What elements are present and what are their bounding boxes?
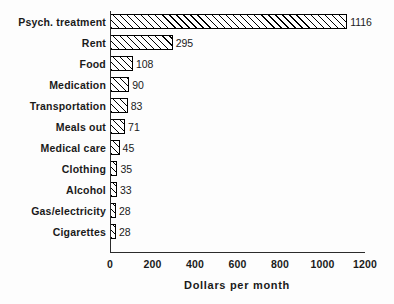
- bar-row: Medical care45: [0, 140, 394, 155]
- category-label: Meals out: [56, 121, 106, 133]
- bar: [110, 77, 129, 92]
- bar: [110, 119, 125, 134]
- bar-value-label: 108: [136, 58, 154, 70]
- x-axis-title: Dollars per month: [184, 279, 290, 291]
- category-label: Cigarettes: [53, 226, 106, 238]
- category-label: Transportation: [30, 100, 106, 112]
- bar: [110, 98, 128, 113]
- bar-row: Psych. treatment1116: [0, 14, 394, 29]
- bar-value-label: 35: [120, 163, 132, 175]
- bar-value-label: 33: [120, 184, 132, 196]
- x-axis-line: [110, 252, 365, 253]
- category-label: Medication: [49, 79, 106, 91]
- bar-row: Food108: [0, 56, 394, 71]
- bar-value-label: 28: [119, 205, 131, 217]
- bar-chart: Psych. treatment1116Rent295Food108Medica…: [0, 0, 394, 304]
- bar-row: Cigarettes28: [0, 224, 394, 239]
- x-tick-label: 0: [107, 258, 113, 270]
- bar-value-label: 1116: [350, 16, 372, 28]
- y-axis-line: [110, 11, 111, 253]
- bar-row: Gas/electricity28: [0, 203, 394, 218]
- bar: [110, 182, 117, 197]
- bar-row: Meals out71: [0, 119, 394, 134]
- plot-area: Psych. treatment1116Rent295Food108Medica…: [0, 0, 394, 304]
- bar: [110, 161, 117, 176]
- x-tick-label: 200: [143, 258, 161, 270]
- x-tick-label: 800: [271, 258, 289, 270]
- x-tick-label: 1000: [310, 258, 334, 270]
- bar-row: Clothing35: [0, 161, 394, 176]
- category-label: Psych. treatment: [18, 16, 106, 28]
- category-label: Rent: [82, 37, 106, 49]
- x-tick-label: 400: [186, 258, 204, 270]
- bar-row: Rent295: [0, 35, 394, 50]
- bar-value-label: 45: [123, 142, 135, 154]
- bar: [110, 14, 347, 29]
- bar-row: Transportation83: [0, 98, 394, 113]
- bar-value-label: 71: [128, 121, 140, 133]
- category-label: Medical care: [41, 142, 106, 154]
- category-label: Gas/electricity: [31, 205, 106, 217]
- category-label: Alcohol: [66, 184, 106, 196]
- category-label: Food: [80, 58, 106, 70]
- bar: [110, 56, 133, 71]
- bar: [110, 140, 120, 155]
- bar-row: Medication90: [0, 77, 394, 92]
- bar-value-label: 83: [131, 100, 143, 112]
- bar: [110, 35, 173, 50]
- category-label: Clothing: [62, 163, 106, 175]
- x-tick-label: 600: [228, 258, 246, 270]
- bar-value-label: 90: [132, 79, 144, 91]
- bar-value-label: 28: [119, 226, 131, 238]
- x-tick-label: 1200: [353, 258, 377, 270]
- bar-row: Alcohol33: [0, 182, 394, 197]
- bar-value-label: 295: [176, 37, 194, 49]
